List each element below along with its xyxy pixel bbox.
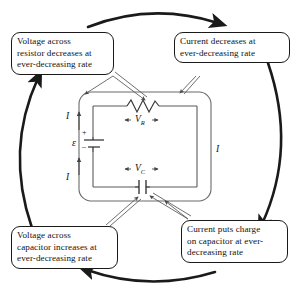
- callout-line: capacitor increases at: [17, 242, 112, 254]
- leader-tl-c: [85, 76, 113, 94]
- loop-arc-top: [88, 13, 218, 27]
- current-callout: Current decreases at ever-decreasing rat…: [174, 32, 290, 63]
- voltage-extent-arrows: [125, 120, 158, 169]
- leader-bl-b: [110, 199, 141, 226]
- loop-arc-right: [262, 63, 281, 224]
- resistor-voltage-callout: Voltage across resistor decreases at eve…: [11, 32, 114, 75]
- resistor-symbol: [127, 100, 159, 112]
- callout-line: Current decreases at: [180, 36, 284, 48]
- leader-br-c: [165, 201, 188, 219]
- callout-line: decreasing rate: [187, 247, 282, 259]
- leader-br-a: [150, 196, 188, 219]
- current-label-left-upper: I: [66, 111, 69, 121]
- callout-leaders: [85, 72, 200, 226]
- capacitor-symbol: [135, 180, 150, 194]
- callout-line: ever-decreasing rate: [180, 48, 284, 60]
- leader-tl-b: [115, 72, 147, 97]
- callout-line: Voltage across: [17, 230, 112, 242]
- leader-br-b: [153, 193, 191, 216]
- callout-line: ever-decreasing rate: [17, 253, 112, 265]
- callout-line: Voltage across: [17, 36, 108, 48]
- battery-symbol: [84, 137, 104, 152]
- loop-arc-bottom: [87, 270, 215, 282]
- capacitor-voltage-label: VC: [135, 163, 145, 175]
- capacitor-voltage-callout: Voltage across capacitor increases at ev…: [11, 226, 118, 269]
- capacitor-voltage-subscript: C: [141, 168, 145, 175]
- current-label-right: I: [216, 144, 219, 154]
- callout-line: ever-decreasing rate: [17, 59, 108, 71]
- current-label-left-lower: I: [66, 172, 69, 182]
- leader-tr-a: [180, 76, 196, 93]
- resistor-voltage-label: VR: [135, 114, 145, 126]
- emf-plus-sign: +: [82, 128, 87, 137]
- capacitor-charge-callout: Current puts charge on capacitor at ever…: [181, 220, 288, 263]
- loop-arc-left: [20, 78, 38, 228]
- rc-circuit-feedback-diagram: Voltage across resistor decreases at eve…: [0, 0, 303, 296]
- emf-label: ε: [72, 137, 76, 148]
- leader-tl-a: [113, 76, 145, 100]
- emf-minus-sign: –: [82, 142, 86, 151]
- callout-line: resistor decreases at: [17, 48, 108, 60]
- resistor-voltage-subscript: R: [141, 119, 145, 126]
- callout-line: Current puts charge: [187, 224, 282, 236]
- leader-tr-b: [184, 76, 200, 94]
- callout-line: on capacitor at ever-: [187, 236, 282, 248]
